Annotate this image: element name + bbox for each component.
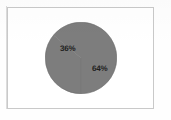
chart-frame: 36% 64% [7, 7, 154, 109]
pie-chart-graphic [45, 22, 117, 94]
pie-slice-label-2: 64% [92, 64, 107, 73]
pie-slice-label-1: 36% [60, 44, 75, 53]
pie-chart-plot-area: 36% 64% [8, 8, 153, 108]
figure-canvas: 36% 64% [0, 0, 171, 120]
